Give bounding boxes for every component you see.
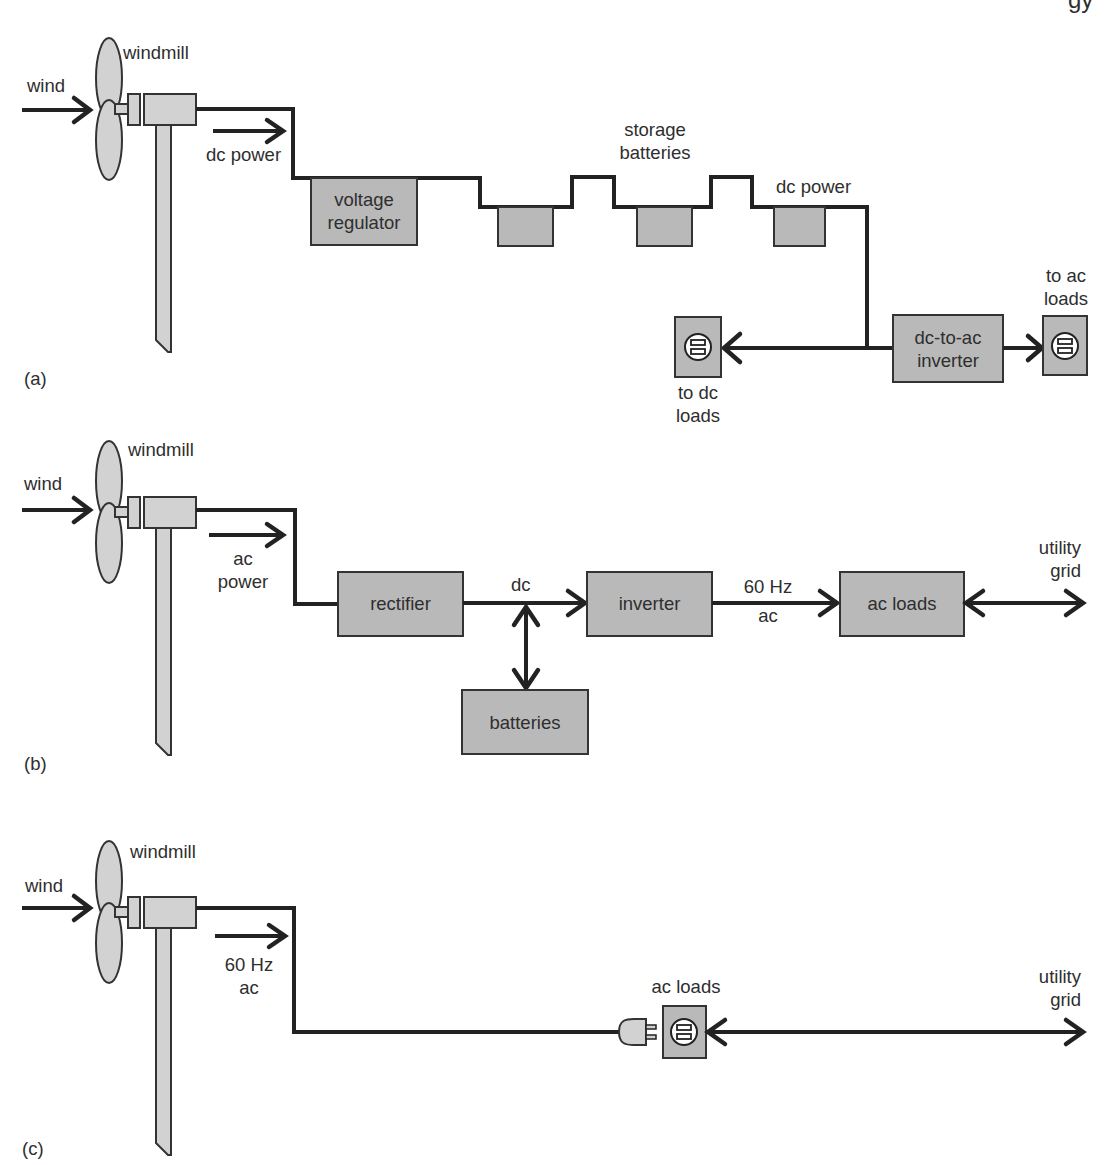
dc-loads-label: to dc loads — [660, 381, 736, 427]
wind-arrow-icon — [22, 896, 90, 920]
batteries-label: batteries — [462, 711, 588, 734]
ac-outlet-icon — [1052, 333, 1078, 359]
hz-ac-label: 60 Hz ac — [730, 575, 806, 627]
wind-arrow-icon — [22, 98, 90, 122]
voltage-regulator-label: voltage regulator — [311, 188, 417, 234]
panel-label-a: (a) — [24, 367, 47, 390]
wind-power-systems-diagram — [0, 0, 1104, 1165]
ac-loads-label: to ac loads — [1028, 264, 1104, 310]
storage-battery-2 — [637, 207, 692, 246]
storage-battery-1 — [498, 207, 553, 246]
inverter-label: inverter — [587, 592, 712, 615]
power-direction-arrow-icon — [215, 925, 285, 947]
utility-grid-label: utility grid — [1000, 965, 1081, 1011]
dc-outlet-icon — [685, 334, 711, 360]
rectifier-label: rectifier — [338, 592, 463, 615]
dc-power-out-label: dc power — [776, 175, 851, 198]
windmill-icon — [96, 441, 196, 755]
panel-label-c: (c) — [22, 1137, 44, 1160]
plug-icon — [619, 1019, 656, 1045]
page-header-fragment: gy — [1068, 0, 1093, 11]
windmill-icon — [96, 38, 196, 352]
windmill-label: windmill — [123, 41, 189, 64]
power-direction-arrow-icon — [213, 120, 283, 142]
ac-loads-label: ac loads — [840, 592, 964, 615]
panel-label-b: (b) — [24, 752, 47, 775]
power-type-label: ac power — [210, 547, 276, 593]
ac-loads-label: ac loads — [636, 975, 736, 998]
wind-label: wind — [25, 874, 63, 897]
diagram-c — [22, 841, 1083, 1155]
wind-label: wind — [24, 472, 62, 495]
windmill-label: windmill — [130, 840, 196, 863]
utility-grid-label: utility grid — [1000, 536, 1081, 582]
storage-batteries-label: storage batteries — [610, 118, 700, 164]
storage-battery-3 — [774, 207, 825, 246]
inverter-label: dc-to-ac inverter — [893, 326, 1003, 372]
windmill-label: windmill — [128, 438, 194, 461]
power-type-label: 60 Hz ac — [216, 953, 282, 999]
dc-label: dc — [511, 573, 531, 596]
wind-arrow-icon — [22, 498, 90, 522]
windmill-icon — [96, 841, 196, 1155]
wind-label: wind — [27, 74, 65, 97]
ac-outlet-icon — [671, 1019, 697, 1045]
power-direction-arrow-icon — [209, 524, 283, 546]
power-type-label: dc power — [206, 143, 281, 166]
